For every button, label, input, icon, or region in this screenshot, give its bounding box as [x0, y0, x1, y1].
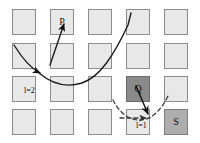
grid-cell-r1c1[interactable] — [12, 9, 36, 35]
grid-cell-r2c2[interactable] — [50, 43, 74, 69]
annotation-l2: l=2 — [24, 87, 35, 95]
grid-cell-r1c2-p[interactable]: P — [50, 9, 74, 35]
grid-cell-r1c4[interactable] — [126, 9, 150, 35]
grid-cell-r2c5[interactable] — [164, 43, 188, 69]
grid-cell-r3c4-q[interactable]: Q — [126, 76, 150, 102]
grid-cell-r4c2[interactable] — [50, 109, 74, 135]
grid-cell-r3c5[interactable] — [164, 76, 188, 102]
grid-cell-r1c5[interactable] — [164, 9, 188, 35]
grid-cell-r2c3[interactable] — [88, 43, 112, 69]
grid-cell-r4c5-s[interactable]: S — [164, 109, 188, 135]
grid-cell-r4c1[interactable] — [12, 109, 36, 135]
diagram-canvas: P Q — [0, 0, 200, 143]
annotation-l1: l=1 — [136, 122, 147, 130]
grid-cell-r3c2[interactable] — [50, 76, 74, 102]
grid-cell-r2c4[interactable] — [126, 43, 150, 69]
node-label-q: Q — [127, 84, 149, 94]
grid-cell-r4c3[interactable] — [88, 109, 112, 135]
grid-cell-r3c3[interactable] — [88, 76, 112, 102]
node-label-s: S — [165, 117, 187, 127]
grid-cell-r2c1[interactable] — [12, 43, 36, 69]
grid-cell-r1c3[interactable] — [88, 9, 112, 35]
node-label-p: P — [51, 17, 73, 27]
